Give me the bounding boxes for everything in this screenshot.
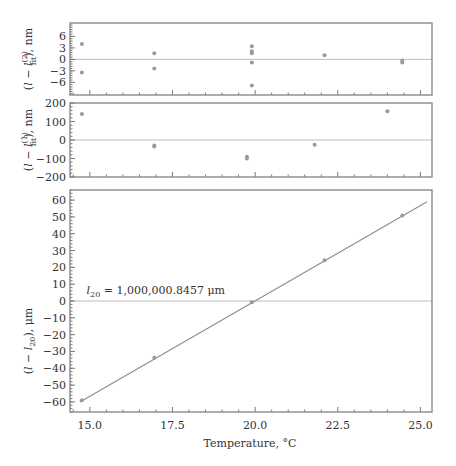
data-point — [152, 356, 156, 360]
data-point — [80, 70, 84, 74]
y-tick-label: 40 — [52, 228, 66, 241]
y-tick-label: −10 — [43, 312, 66, 325]
y-tick-label: 200 — [45, 97, 66, 110]
y-tick-label: 20 — [52, 261, 66, 274]
y-tick-label: −60 — [43, 396, 66, 409]
data-point — [152, 51, 156, 55]
y-tick-label: −50 — [43, 379, 66, 392]
y-tick-label: 100 — [45, 116, 66, 129]
y-tick-label: 60 — [52, 194, 66, 207]
y-tick-label: 0 — [59, 134, 66, 147]
x-tick-label: 20.0 — [243, 419, 268, 432]
data-point — [400, 214, 404, 218]
y-tick-label: −40 — [43, 362, 66, 375]
data-point — [323, 258, 327, 262]
data-point — [80, 112, 84, 116]
y-tick-label: 0 — [59, 295, 66, 308]
y-tick-label: −6 — [50, 76, 66, 89]
data-point — [250, 300, 254, 304]
x-axis-label: Temperature, °C — [204, 437, 297, 450]
y-axis-label: (l − l(2)fit), nm — [20, 27, 38, 90]
y-tick-label: 30 — [52, 245, 66, 258]
y-axis-label: (l − l20), μm — [22, 307, 37, 374]
data-point — [80, 398, 84, 402]
data-point — [323, 53, 327, 57]
data-point — [250, 83, 254, 87]
data-point — [250, 44, 254, 48]
residual-1-panel: 2001000−100−200(l − l(1)fit), nm — [20, 97, 432, 184]
data-point — [245, 157, 249, 161]
x-tick-label: 15.0 — [78, 419, 103, 432]
x-tick-label: 22.5 — [326, 419, 351, 432]
y-tick-label: −30 — [43, 345, 66, 358]
chart-figure: 630−3−6(l − l(2)fit), nm 2001000−100−200… — [0, 0, 456, 466]
data-point — [250, 51, 254, 55]
residual-2-panel: 630−3−6(l − l(2)fit), nm — [20, 23, 432, 95]
data-point — [400, 60, 404, 64]
y-tick-label: 50 — [52, 211, 66, 224]
y-tick-label: 10 — [52, 278, 66, 291]
data-point — [313, 143, 317, 147]
data-point — [80, 42, 84, 46]
y-tick-label: −20 — [43, 329, 66, 342]
data-point — [385, 109, 389, 113]
x-tick-label: 25.0 — [408, 419, 433, 432]
reference-length-annotation: l20 = 1,000,000.8457 μm — [87, 284, 226, 299]
main-deviation-panel: 6050403020100−10−20−30−40−50−6015.017.52… — [22, 190, 433, 432]
data-point — [152, 67, 156, 71]
y-tick-label: −100 — [36, 153, 66, 166]
x-tick-label: 17.5 — [160, 419, 185, 432]
y-tick-label: −200 — [36, 171, 66, 184]
data-point — [152, 144, 156, 148]
data-point — [250, 60, 254, 64]
